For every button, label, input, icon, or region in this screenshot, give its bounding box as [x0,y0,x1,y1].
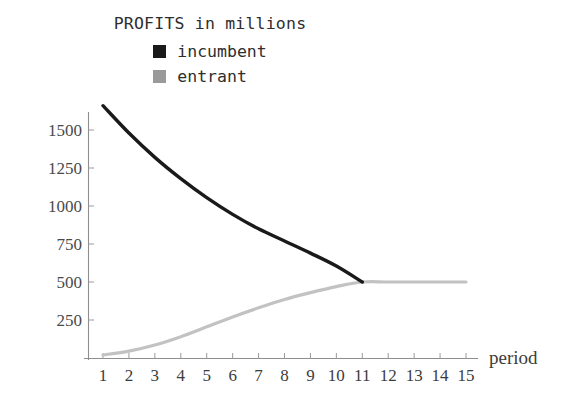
chart-figure: PROFITS in millions incumbent entrant 25… [0,0,582,402]
x-tick-label: 14 [432,366,450,385]
plot-area: 250500750100012501500 123456789101112131… [0,0,582,402]
series-line-incumbent [103,106,362,282]
y-tick-label: 1000 [48,197,82,216]
x-tick-label: 8 [280,366,289,385]
x-axis-ticks: 123456789101112131415 [99,353,475,385]
x-tick-label: 4 [177,366,186,385]
x-tick-label: 13 [406,366,423,385]
x-tick-label: 5 [202,366,211,385]
y-tick-label: 1250 [48,159,82,178]
x-tick-label: 9 [306,366,315,385]
series-line-entrant [103,282,466,355]
x-tick-label: 10 [328,366,345,385]
y-tick-label: 500 [57,273,83,292]
x-tick-label: 2 [125,366,134,385]
plot-svg: 250500750100012501500 123456789101112131… [0,0,582,402]
x-tick-label: 1 [99,366,108,385]
x-tick-label: 3 [151,366,160,385]
x-tick-label: 12 [380,366,397,385]
y-tick-label: 750 [57,235,83,254]
x-tick-label: 6 [228,366,237,385]
x-axis-label: period [489,347,538,368]
y-tick-label: 250 [57,311,83,330]
x-tick-label: 15 [458,366,475,385]
y-tick-label: 1500 [48,121,82,140]
x-tick-label: 11 [354,366,370,385]
x-tick-label: 7 [254,366,263,385]
y-axis-ticks: 250500750100012501500 [48,121,94,330]
